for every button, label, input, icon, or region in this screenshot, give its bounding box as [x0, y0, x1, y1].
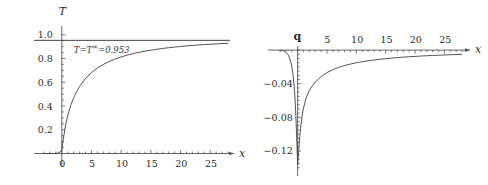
x-tick-label-10: 10 — [116, 159, 128, 169]
heat-flux-plot-canvas — [244, 0, 488, 185]
y-tick-label-0.6: 0.6 — [38, 78, 53, 88]
y-tick-label-0.4: 0.4 — [38, 102, 53, 112]
chart-heat-flux-profile: 510152025−0.04−0.08−0.12qx — [244, 0, 488, 185]
x-tick-label-5: 5 — [324, 35, 330, 45]
y-axis-title-T: T — [59, 6, 66, 17]
x-tick-label-15: 15 — [146, 159, 158, 169]
y-tick-label-0.2: 0.2 — [38, 125, 53, 135]
y-tick-label--0.08: −0.08 — [264, 113, 293, 123]
y-tick-label--0.04: −0.04 — [264, 79, 293, 89]
chart-temperature-profile: 05101520250.20.40.60.81.0TxT=T∞=0.953 — [0, 0, 244, 185]
asymptote-annotation: T=T∞=0.953 — [74, 44, 130, 54]
y-tick-label--0.12: −0.12 — [264, 146, 293, 156]
temperature-axes — [34, 26, 234, 167]
x-tick-label-20: 20 — [410, 35, 422, 45]
x-tick-label-25: 25 — [205, 159, 217, 169]
x-tick-label-5: 5 — [89, 159, 95, 169]
y-tick-label-1.0: 1.0 — [38, 30, 53, 40]
y-axis-title-q: q — [294, 31, 302, 42]
x-tick-label-10: 10 — [351, 35, 363, 45]
figure-two-panel-plot: 05101520250.20.40.60.81.0TxT=T∞=0.953 51… — [0, 0, 488, 185]
temperature-curves — [34, 40, 230, 153]
x-tick-label-20: 20 — [175, 159, 187, 169]
y-tick-label-0.8: 0.8 — [38, 54, 53, 64]
x-tick-label-15: 15 — [380, 35, 392, 45]
x-tick-label-0: 0 — [59, 159, 65, 169]
x-axis-title-x: x — [475, 44, 481, 55]
x-tick-label-25: 25 — [439, 35, 451, 45]
heat-flux-curves — [280, 50, 462, 164]
